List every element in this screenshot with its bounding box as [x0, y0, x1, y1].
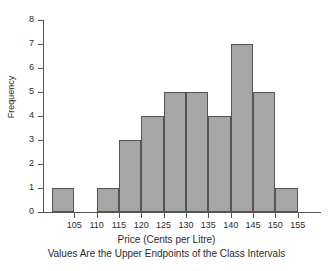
- y-tick-label: 3: [10, 135, 34, 144]
- x-tick-mark: [208, 213, 209, 218]
- histogram-figure: 012345678 105110115120125130135140145150…: [0, 0, 333, 271]
- y-axis-line: [43, 20, 44, 213]
- y-tick-mark: [38, 212, 43, 213]
- x-tick-mark: [74, 213, 75, 218]
- x-tick-mark: [97, 213, 98, 218]
- histogram-bar: [119, 140, 141, 212]
- y-axis-title: Frequency: [6, 62, 16, 132]
- y-tick-mark: [38, 188, 43, 189]
- x-tick-mark: [275, 213, 276, 218]
- y-tick-mark: [38, 116, 43, 117]
- y-tick-mark: [38, 44, 43, 45]
- y-tick-label: 1: [10, 183, 34, 192]
- x-tick-mark: [298, 213, 299, 218]
- histogram-bar: [52, 188, 74, 212]
- x-axis-line: [43, 212, 321, 213]
- histogram-bar: [97, 188, 119, 212]
- x-axis-title: Price (Cents per Litre): [0, 234, 333, 246]
- histogram-bar: [164, 92, 186, 212]
- y-tick-label: 8: [10, 15, 34, 24]
- x-tick-label: 155: [283, 220, 313, 230]
- x-tick-mark: [231, 213, 232, 218]
- y-tick-mark: [38, 20, 43, 21]
- histogram-bar: [208, 116, 230, 212]
- histogram-bar: [141, 116, 163, 212]
- histogram-bar: [186, 92, 208, 212]
- histogram-bar: [253, 92, 275, 212]
- x-tick-mark: [253, 213, 254, 218]
- x-tick-mark: [186, 213, 187, 218]
- x-tick-mark: [141, 213, 142, 218]
- chart-subtitle: Values Are the Upper Endpoints of the Cl…: [0, 248, 333, 260]
- histogram-bar: [231, 44, 253, 212]
- x-tick-mark: [119, 213, 120, 218]
- y-tick-mark: [38, 140, 43, 141]
- y-tick-mark: [38, 164, 43, 165]
- y-tick-mark: [38, 92, 43, 93]
- x-tick-mark: [164, 213, 165, 218]
- y-tick-label: 0: [10, 207, 34, 216]
- y-tick-mark: [38, 68, 43, 69]
- histogram-bar: [275, 188, 297, 212]
- y-tick-label: 7: [10, 39, 34, 48]
- y-tick-label: 2: [10, 159, 34, 168]
